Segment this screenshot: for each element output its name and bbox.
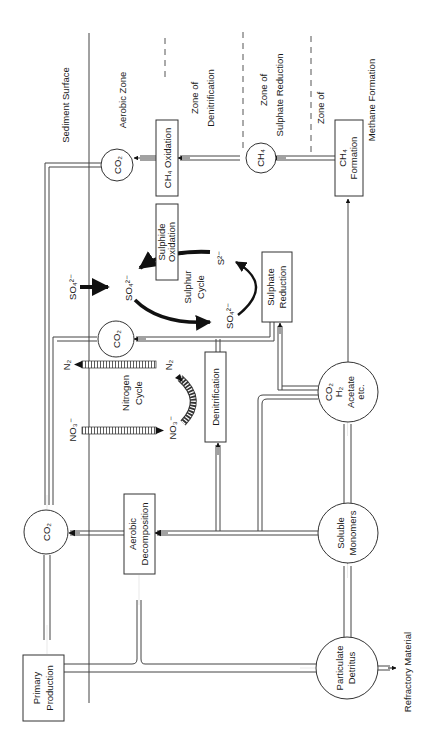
svg-text:Decomposition: Decomposition bbox=[139, 503, 150, 566]
svg-text:Denitrification: Denitrification bbox=[210, 368, 221, 426]
svg-text:Formation: Formation bbox=[348, 137, 359, 180]
svg-text:S²⁻: S²⁻ bbox=[215, 251, 226, 266]
svg-text:CO₂: CO₂ bbox=[41, 523, 52, 541]
svg-text:Sulphur: Sulphur bbox=[182, 271, 193, 304]
svg-text:CO₂: CO₂ bbox=[112, 156, 123, 174]
node-sulphide-oxidation: Sulphide Oxidation bbox=[156, 204, 178, 280]
svg-text:Sulphate: Sulphate bbox=[265, 268, 276, 306]
svg-text:Oxidation: Oxidation bbox=[166, 222, 177, 262]
svg-text:CO₂: CO₂ bbox=[111, 330, 122, 348]
svg-text:Monomers: Monomers bbox=[347, 510, 358, 555]
node-co2-mid: CO₂ bbox=[98, 321, 134, 357]
svg-text:SO₄²⁻: SO₄²⁻ bbox=[67, 274, 78, 300]
svg-text:Zone of: Zone of bbox=[315, 92, 326, 125]
svg-text:Sulphate Reduction: Sulphate Reduction bbox=[274, 54, 285, 137]
svg-text:Sediment Surface: Sediment Surface bbox=[60, 67, 71, 143]
svg-text:N₂: N₂ bbox=[61, 359, 72, 370]
svg-text:Zone of: Zone of bbox=[189, 82, 200, 115]
svg-text:NO₃⁻: NO₃⁻ bbox=[167, 416, 178, 439]
svg-text:SO₄²⁻: SO₄²⁻ bbox=[123, 275, 134, 301]
node-soluble-monomers: Soluble Monomers bbox=[318, 503, 378, 563]
diagram-canvas: CO₂ CH₄ Oxidation CH₄ CH₄ Formation Sulp… bbox=[0, 0, 422, 748]
node-co2-top: CO₂ bbox=[101, 149, 133, 181]
svg-text:H₂: H₂ bbox=[333, 386, 344, 397]
svg-text:Methane Formation: Methane Formation bbox=[366, 59, 377, 141]
node-co2-left: CO₂ bbox=[24, 510, 68, 554]
svg-text:CH₄ Oxidation: CH₄ Oxidation bbox=[162, 128, 173, 188]
svg-text:Zone of: Zone of bbox=[258, 74, 269, 107]
svg-text:Particulate: Particulate bbox=[334, 646, 345, 691]
svg-text:Aerobic Zone: Aerobic Zone bbox=[117, 72, 128, 129]
svg-text:Nitrogen: Nitrogen bbox=[120, 375, 131, 411]
svg-text:NO₃⁻: NO₃⁻ bbox=[67, 418, 78, 441]
svg-text:Production: Production bbox=[44, 665, 55, 710]
node-denitrification: Denitrification bbox=[205, 352, 226, 442]
node-sulphate-reduction: Sulphate Reduction bbox=[262, 252, 292, 322]
svg-text:CH₄: CH₄ bbox=[255, 149, 266, 167]
node-aerobic-decomposition: Aerobic Decomposition bbox=[124, 494, 155, 574]
node-ch4-formation: CH₄ Formation bbox=[335, 120, 363, 196]
svg-text:N₂: N₂ bbox=[163, 359, 174, 370]
svg-text:SO₄²⁻: SO₄²⁻ bbox=[224, 303, 235, 329]
node-particulate-detritus: Particulate Detritus bbox=[316, 637, 378, 699]
refractory-material-label: Refractory Material bbox=[402, 632, 413, 712]
svg-text:Primary: Primary bbox=[31, 671, 42, 704]
svg-text:Soluble: Soluble bbox=[335, 517, 346, 549]
node-ch4: CH₄ bbox=[246, 143, 276, 173]
svg-text:Aerobic: Aerobic bbox=[127, 518, 138, 550]
svg-text:Cycle: Cycle bbox=[133, 381, 144, 405]
node-fermentation-products: CO₂ H₂ Acetate etc. bbox=[318, 362, 378, 422]
svg-text:Denitrification: Denitrification bbox=[205, 69, 216, 127]
svg-text:etc.: etc. bbox=[355, 384, 366, 399]
node-ch4-oxidation: CH₄ Oxidation bbox=[156, 120, 178, 196]
svg-text:CH₄: CH₄ bbox=[337, 149, 348, 167]
svg-text:Cycle: Cycle bbox=[195, 275, 206, 299]
svg-text:Detritus: Detritus bbox=[346, 651, 357, 684]
svg-text:Reduction: Reduction bbox=[277, 266, 288, 309]
node-primary-production: Primary Production bbox=[23, 655, 64, 721]
zone-labels: Sediment Surface Aerobic Zone Zone of De… bbox=[60, 54, 377, 143]
